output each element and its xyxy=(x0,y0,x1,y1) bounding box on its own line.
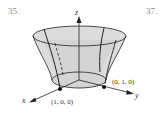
point-label-0-1-0: (0, 1, 0) xyxy=(112,78,135,86)
x-axis-label: x xyxy=(21,96,26,105)
z-axis-arrow xyxy=(77,16,82,23)
hyperboloid-figure: z x y (1, 0, 0) (0, 1, 0) xyxy=(0,0,165,124)
point-1-0-0 xyxy=(58,87,62,91)
y-axis-label: y xyxy=(134,91,139,100)
y-axis-arrow xyxy=(126,90,134,95)
x-axis-arrow xyxy=(29,98,37,103)
z-axis-label: z xyxy=(74,8,79,17)
point-label-1-0-0: (1, 0, 0) xyxy=(51,98,74,106)
point-0-1-0 xyxy=(102,85,106,89)
